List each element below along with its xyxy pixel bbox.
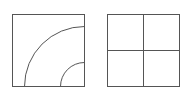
right-figure	[108, 15, 180, 87]
large-quarter-arc	[25, 27, 85, 87]
diagram-canvas	[0, 0, 188, 94]
small-quarter-arc	[61, 63, 85, 87]
left-figure	[13, 15, 85, 87]
left-square	[13, 15, 85, 87]
